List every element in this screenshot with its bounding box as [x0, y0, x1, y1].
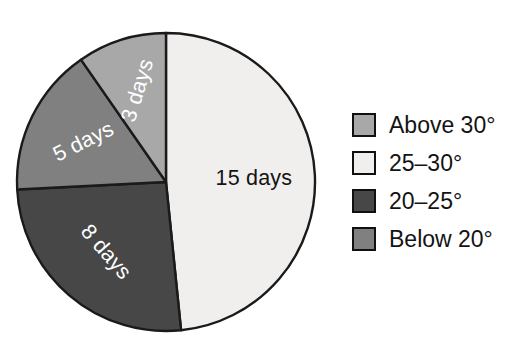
- legend-item-20-25[interactable]: 20–25°: [352, 182, 530, 220]
- legend-label-25-30: 25–30°: [389, 152, 462, 175]
- legend-label-below-20: Below 20°: [389, 228, 493, 251]
- pie-slice-label-25-30: 15 days: [216, 166, 293, 190]
- pie-chart-svg: 15 days 8 days 5 days 3 days: [0, 0, 340, 359]
- legend-item-25-30[interactable]: 25–30°: [352, 144, 530, 182]
- pie-chart-figure: 15 days 8 days 5 days 3 days Above 30° 2…: [0, 0, 530, 359]
- legend-label-20-25: 20–25°: [389, 190, 462, 213]
- legend-swatch-25-30: [352, 151, 376, 175]
- chart-legend: Above 30° 25–30° 20–25° Below 20°: [352, 106, 530, 258]
- legend-swatch-above-30: [352, 113, 376, 137]
- legend-item-above-30[interactable]: Above 30°: [352, 106, 530, 144]
- legend-label-above-30: Above 30°: [389, 114, 495, 137]
- legend-swatch-20-25: [352, 189, 376, 213]
- legend-item-below-20[interactable]: Below 20°: [352, 220, 530, 258]
- legend-swatch-below-20: [352, 227, 376, 251]
